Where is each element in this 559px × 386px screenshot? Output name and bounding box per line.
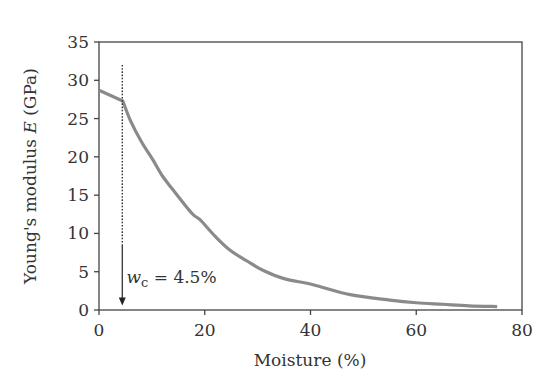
y-tick-label: 20	[67, 147, 89, 167]
x-tick-label: 80	[511, 320, 533, 340]
label-value: = 4.5%	[148, 267, 216, 287]
y-axis-label-suffix: (GPa)	[20, 68, 40, 121]
critical-moisture-label: wc = 4.5%	[126, 267, 216, 290]
x-tick-label: 60	[405, 320, 427, 340]
x-axis-label: Moisture (%)	[254, 350, 367, 370]
y-axis-label-symbol: E	[20, 121, 40, 135]
label-symbol: w	[126, 267, 141, 287]
y-tick-label: 15	[67, 185, 89, 205]
y-tick-label: 30	[67, 70, 89, 90]
chart: 05101520253035 020406080 wc = 4.5% Moist…	[0, 0, 559, 386]
y-axis-label: Young's modulus E (GPa)	[20, 68, 40, 285]
x-tick-label: 20	[194, 320, 216, 340]
x-tick-label: 40	[300, 320, 322, 340]
y-tick-label: 35	[67, 32, 89, 52]
y-tick-label: 25	[67, 109, 89, 129]
y-tick-label: 5	[78, 262, 89, 282]
x-tick-label: 0	[94, 320, 105, 340]
y-tick-label: 0	[78, 300, 89, 320]
arrow-head-icon	[119, 297, 126, 305]
y-tick-label: 10	[67, 223, 89, 243]
label-subscript: c	[141, 275, 148, 290]
y-axis-label-prefix: Young's modulus	[20, 134, 40, 285]
x-axis-ticks: 020406080	[94, 310, 533, 340]
y-axis-ticks: 05101520253035	[67, 32, 99, 320]
